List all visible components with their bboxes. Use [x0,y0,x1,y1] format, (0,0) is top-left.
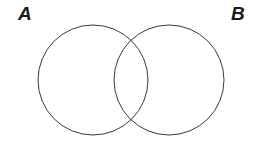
venn-diagram-canvas [0,0,262,142]
set-b-label: B [231,4,245,23]
venn-diagram-figure: A B [0,0,262,142]
set-a-label: A [18,4,32,23]
figure-background [0,0,262,142]
